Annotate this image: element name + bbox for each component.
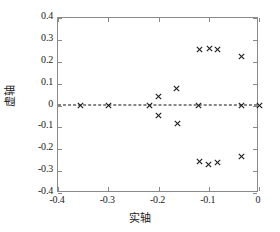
- plot-area: [57, 17, 258, 192]
- y-tick-4: [253, 106, 257, 107]
- y-tick-7: [253, 171, 257, 172]
- zero-reference-line: [58, 104, 257, 105]
- x-tick-3: [209, 187, 210, 191]
- x-tick-label-4: 0: [238, 194, 278, 205]
- y-tick-label-3: 0.1: [11, 76, 53, 87]
- x-tick-label-0: -0.4: [37, 194, 77, 205]
- y-tick-0: [253, 18, 257, 19]
- y-tick-5: [253, 127, 257, 128]
- y-tick-1: [253, 40, 257, 41]
- y-tick-6: [58, 149, 62, 150]
- x-tick-0: [58, 187, 59, 191]
- data-point-marker: [214, 46, 221, 53]
- figure: 0.40.30.20.10-0.1-0.2-0.3-0.4 -0.4-0.3-0…: [0, 0, 280, 232]
- x-tick-1: [108, 187, 109, 191]
- y-tick-6: [253, 149, 257, 150]
- x-tick-1: [108, 18, 109, 22]
- x-tick-4: [259, 187, 260, 191]
- y-tick-2: [58, 62, 62, 63]
- y-tick-2: [253, 62, 257, 63]
- x-tick-label-3: -0.1: [188, 194, 228, 205]
- y-tick-label-7: -0.3: [11, 163, 53, 174]
- y-tick-0: [58, 18, 62, 19]
- data-point-marker: [196, 158, 203, 165]
- x-tick-2: [159, 187, 160, 191]
- x-tick-3: [209, 18, 210, 22]
- y-tick-label-1: 0.3: [11, 32, 53, 43]
- y-tick-3: [58, 84, 62, 85]
- y-tick-3: [253, 84, 257, 85]
- data-point-marker: [173, 85, 180, 92]
- data-point-marker: [238, 153, 245, 160]
- y-tick-label-6: -0.2: [11, 141, 53, 152]
- x-axis-label: 实轴: [0, 209, 280, 225]
- data-point-marker: [174, 120, 181, 127]
- data-point-marker: [155, 112, 162, 119]
- y-tick-4: [58, 106, 62, 107]
- y-tick-5: [58, 127, 62, 128]
- x-tick-label-1: -0.3: [87, 194, 127, 205]
- data-point-marker: [196, 46, 203, 53]
- y-tick-label-5: -0.1: [11, 119, 53, 130]
- data-point-marker: [155, 93, 162, 100]
- data-point-marker: [238, 53, 245, 60]
- data-point-marker: [206, 45, 213, 52]
- y-tick-label-0: 0.4: [11, 10, 53, 21]
- data-point-marker: [214, 159, 221, 166]
- y-tick-label-2: 0.2: [11, 54, 53, 65]
- data-point-marker: [205, 161, 212, 168]
- x-tick-label-2: -0.2: [138, 194, 178, 205]
- y-axis-label: 虚轴: [1, 66, 17, 126]
- y-tick-8: [58, 193, 62, 194]
- y-tick-1: [58, 40, 62, 41]
- x-tick-4: [259, 18, 260, 22]
- y-tick-7: [58, 171, 62, 172]
- y-tick-label-4: 0: [11, 98, 53, 109]
- x-tick-2: [159, 18, 160, 22]
- y-tick-8: [253, 193, 257, 194]
